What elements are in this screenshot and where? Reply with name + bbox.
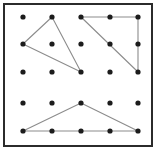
peg-dot-r2-c2 <box>49 41 54 46</box>
peg-dot-r5-c5 <box>135 128 140 133</box>
peg-dot-r2-c3 <box>78 41 83 46</box>
board-canvas <box>0 0 161 153</box>
peg-dot-r2-c1 <box>20 41 25 46</box>
peg-dot-r4-c2 <box>49 100 54 105</box>
peg-dot-r3-c1 <box>20 69 25 74</box>
peg-dot-r5-c2 <box>49 128 54 133</box>
peg-dot-r5-c4 <box>107 128 112 133</box>
peg-dot-r1-c4 <box>107 14 112 19</box>
peg-dot-r3-c3 <box>78 69 83 74</box>
peg-dot-r2-c4 <box>107 41 112 46</box>
peg-dot-r1-c3 <box>78 14 83 19</box>
peg-dot-r4-c3 <box>78 100 83 105</box>
peg-dot-r2-c5 <box>135 41 140 46</box>
peg-dot-r5-c3 <box>78 128 83 133</box>
peg-dot-r4-c1 <box>20 100 25 105</box>
peg-dot-r3-c4 <box>107 69 112 74</box>
geoboard-image <box>0 0 161 153</box>
peg-dot-r1-c5 <box>135 14 140 19</box>
peg-dot-r3-c5 <box>135 69 140 74</box>
peg-dot-r1-c2 <box>49 14 54 19</box>
bottom-triangle <box>23 103 138 131</box>
peg-dot-r5-c1 <box>20 128 25 133</box>
peg-dot-r4-c4 <box>107 100 112 105</box>
peg-dot-r1-c1 <box>20 14 25 19</box>
peg-layer <box>20 14 140 133</box>
peg-dot-r4-c5 <box>135 100 140 105</box>
peg-dot-r3-c2 <box>49 69 54 74</box>
